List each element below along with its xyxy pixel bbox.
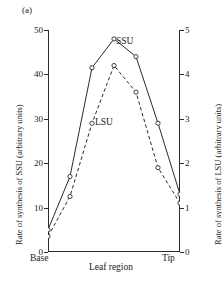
axis-tick-label: 50 [34,25,43,35]
series-label-ssu: SSU [116,36,133,46]
axis-tick-label: 2 [185,158,190,168]
data-point [178,201,180,205]
axis-tick [180,208,184,209]
axis-tick [180,252,184,253]
axis-tick [180,74,184,75]
data-point [134,55,138,59]
y-axis-right-title: Rate of synthesis of LSU (arbitrary unit… [213,104,222,245]
data-point [134,90,138,94]
data-point [156,166,160,170]
axis-tick-label: 0 [185,247,190,257]
data-point [48,234,50,238]
data-point [90,66,94,70]
axis-tick-label: 3 [185,114,190,124]
data-point [156,121,160,125]
axis-tick-label: 4 [185,69,190,79]
axis-tick [180,30,184,31]
axis-tick [180,119,184,120]
data-point [178,192,180,196]
data-point [68,174,72,178]
data-point [112,63,116,67]
x-axis-title: Leaf region [0,262,222,272]
axis-tick-label: 1 [185,203,190,213]
axis-tick-label: 40 [34,69,43,79]
series-line-lsu [48,66,180,237]
data-point [90,121,94,125]
axis-tick-label: 30 [34,114,43,124]
axis-tick-label: 10 [34,203,43,213]
series-label-lsu: LSU [95,117,113,127]
panel-label: (a) [22,5,32,15]
axis-tick-label: 5 [185,25,190,35]
axis-tick-label: 20 [34,158,43,168]
y-axis-left-title: Rate of synthesis of SSU (arbitrary unit… [14,104,24,245]
plot-area: 01020304050 012345 [48,30,180,252]
axis-tick [180,163,184,164]
series-plot [48,30,180,252]
data-point [68,194,72,198]
data-point [48,228,50,232]
